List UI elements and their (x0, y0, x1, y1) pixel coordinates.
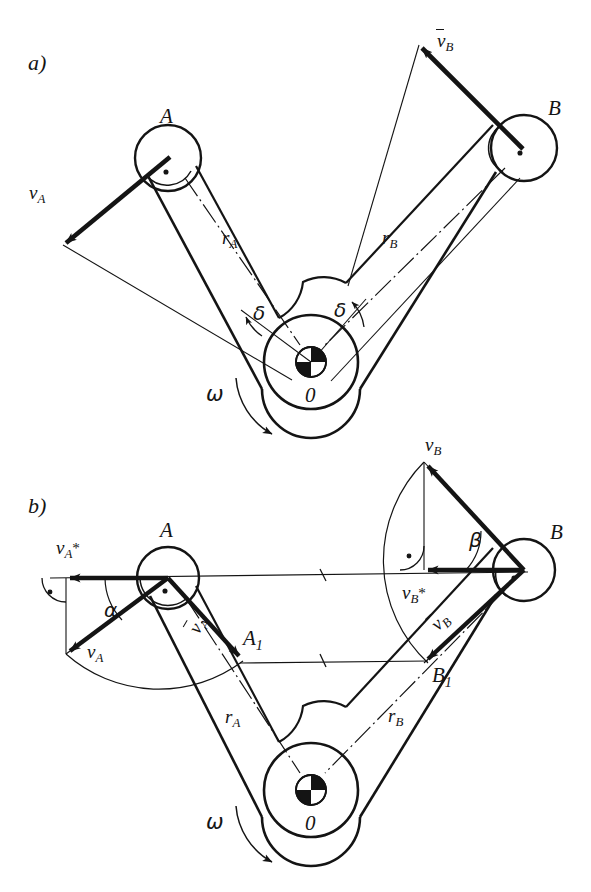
label-vb-bar-a-text: v (437, 31, 445, 50)
label-b1-b-text: B (432, 663, 445, 687)
angle-delta-right-a (352, 302, 364, 327)
label-b1-b-sub: 1 (445, 674, 452, 690)
vector-vb-bar-a (422, 48, 523, 149)
label-vb-star-b-sup: * (418, 584, 426, 601)
label-beta-b: β (469, 530, 482, 550)
label-hub-a: 0 (305, 385, 316, 406)
label-va-b: vA (87, 642, 103, 665)
label-ra-b: rA (225, 707, 240, 730)
label-omega-a: ω (206, 384, 224, 405)
panel-b-graphics (42, 462, 555, 866)
panel-label-a: a) (28, 52, 46, 74)
label-rb-b-sub: B (395, 714, 403, 729)
label-hub-b: 0 (305, 813, 316, 834)
label-ra-b-sub: A (232, 715, 240, 730)
label-vb-b: vB (425, 435, 441, 458)
panel-label-b: b) (28, 495, 46, 517)
label-ra-a: rA (222, 228, 237, 251)
arc-swing-b-b (383, 462, 428, 663)
label-vb-star-b: vB* (402, 583, 426, 606)
right-angle-arc-va-b (42, 578, 66, 602)
radius-line-b-b (325, 590, 505, 773)
label-delta-right-a: δ (334, 300, 346, 320)
omega-arrow-a (236, 378, 272, 434)
label-delta-left-a: δ (253, 303, 265, 323)
label-vb-bar-a-sub: B (445, 39, 453, 54)
label-ra-a-sub: A (229, 236, 237, 251)
label-va-star-b: vA* (56, 538, 80, 561)
label-pulley-a-a: A (160, 106, 173, 127)
label-a1-b-sub: 1 (256, 637, 263, 653)
label-alpha-b: α (104, 600, 117, 620)
label-pulley-b-a: B (548, 98, 561, 119)
omega-arrow-b (236, 806, 272, 862)
radius-line-a-a (185, 178, 300, 345)
line-a1-b1-b (240, 661, 428, 663)
vector-va-b (70, 578, 168, 651)
label-rb-b: rB (388, 706, 403, 729)
diagram-svg (0, 0, 591, 892)
label-a1-b-text: A (243, 626, 256, 650)
belt-band-b (150, 548, 496, 866)
belt-band-a (148, 125, 496, 438)
label-vb-bar-a: vB (437, 31, 453, 54)
label-va-a-sub: A (37, 191, 45, 206)
panel-a-graphics (63, 45, 557, 438)
hub-pin-b (296, 775, 326, 805)
label-va-a: vA (29, 183, 45, 206)
label-pulley-a-b: A (160, 520, 173, 541)
figure-canvas: a) A B vA vB rA rB δ δ ω 0 b) A B vA* vA… (0, 0, 591, 892)
vector-va-bar-b (168, 578, 239, 656)
label-vb-b-sub: B (433, 443, 441, 458)
label-pulley-b-b: B (550, 522, 563, 543)
label-rb-a-sub: B (389, 236, 397, 251)
construction-lines-a (63, 45, 520, 381)
vector-va-a (66, 157, 170, 243)
label-omega-b: ω (206, 812, 224, 833)
label-a1-b: A1 (243, 628, 263, 652)
label-va-b-sub: A (95, 650, 103, 665)
tick-mark-mid-b (320, 654, 326, 667)
label-rb-a: rB (382, 228, 397, 251)
label-va-star-b-sup: * (72, 539, 80, 556)
radius-line-b-a (325, 168, 505, 345)
right-angle-arc-vb-b (400, 546, 424, 570)
label-b1-b: B1 (432, 665, 452, 689)
